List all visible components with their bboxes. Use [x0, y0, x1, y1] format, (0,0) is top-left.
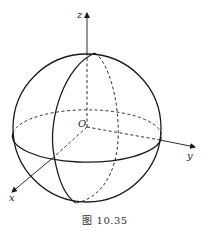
y-axis-label: y [187, 151, 193, 161]
y-axis-hidden [87, 127, 160, 140]
x-axis-label: x [9, 193, 15, 203]
y-axis [160, 140, 195, 147]
z-axis-label: z [77, 10, 82, 20]
sphere-diagram [0, 0, 210, 231]
x-axis [12, 156, 55, 192]
origin-label: O [78, 119, 86, 129]
meridian-front [52, 53, 95, 203]
x-axis-hidden [55, 127, 87, 156]
figure-caption: 图 10.35 [0, 212, 210, 227]
equator-front [13, 133, 161, 162]
